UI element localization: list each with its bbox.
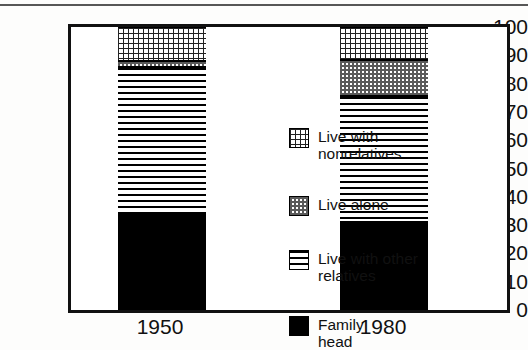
legend-swatch-icon	[289, 316, 309, 336]
bar-segment[interactable]	[118, 67, 206, 214]
stacked-bar[interactable]	[118, 27, 206, 310]
page-top-rule	[0, 4, 528, 6]
bar-segment[interactable]	[118, 27, 206, 61]
legend-label: Live with other relatives	[318, 250, 418, 284]
bar-segment[interactable]	[118, 61, 206, 67]
legend-label: Live with nonrelatives	[318, 128, 402, 162]
legend-swatch-icon	[289, 196, 309, 216]
bar-segment[interactable]	[340, 27, 428, 60]
x-axis-label: 1950	[95, 316, 225, 337]
legend-swatch-icon	[289, 250, 309, 270]
bar-segment[interactable]	[118, 214, 206, 310]
plot-frame: Live with nonrelativesLive aloneLive wit…	[68, 24, 510, 313]
legend-swatch-icon	[289, 128, 309, 148]
legend-item[interactable]: Live alone	[289, 196, 389, 216]
x-axis-label: 1980	[318, 316, 448, 337]
legend-item[interactable]: Live with other relatives	[289, 250, 418, 284]
bar-segment[interactable]	[340, 60, 428, 97]
legend-label: Live alone	[318, 196, 389, 213]
legend-item[interactable]: Live with nonrelatives	[289, 128, 402, 162]
